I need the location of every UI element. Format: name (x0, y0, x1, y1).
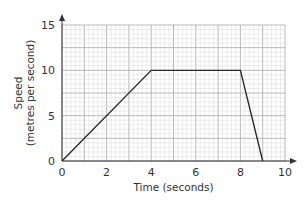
y-tick-labels: 051015 (41, 19, 55, 168)
x-axis-arrow-icon (290, 158, 297, 164)
y-axis-arrow-icon (59, 14, 65, 21)
y-tick-label: 15 (41, 19, 55, 32)
y-axis-label-line1: Speed (12, 77, 24, 110)
x-tick-label: 4 (148, 166, 155, 179)
speed-time-graph: 0246810 051015 Time (seconds) Speed (met… (0, 0, 307, 202)
x-tick-label: 10 (278, 166, 292, 179)
x-axis-label: Time (seconds) (132, 181, 213, 193)
y-tick-label: 0 (48, 155, 55, 168)
y-axis-label-line2: (metres per second) (24, 40, 36, 147)
x-tick-label: 0 (59, 166, 66, 179)
grid (62, 25, 285, 161)
y-tick-label: 5 (48, 110, 55, 123)
x-tick-label: 6 (192, 166, 199, 179)
x-tick-label: 2 (103, 166, 110, 179)
x-tick-label: 8 (237, 166, 244, 179)
x-tick-labels: 0246810 (59, 166, 293, 179)
y-tick-label: 10 (41, 64, 55, 77)
